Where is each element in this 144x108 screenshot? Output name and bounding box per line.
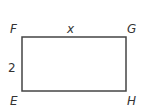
vertex-label-f: F bbox=[10, 22, 18, 36]
vertex-label-h: H bbox=[127, 94, 136, 108]
rectangle-diagram: F x G 2 E H bbox=[0, 0, 144, 108]
side-label-top: x bbox=[66, 22, 75, 36]
vertex-label-g: G bbox=[127, 22, 136, 36]
side-label-left: 2 bbox=[8, 61, 16, 75]
vertex-label-e: E bbox=[10, 94, 18, 108]
rectangle-efgh bbox=[22, 37, 126, 91]
